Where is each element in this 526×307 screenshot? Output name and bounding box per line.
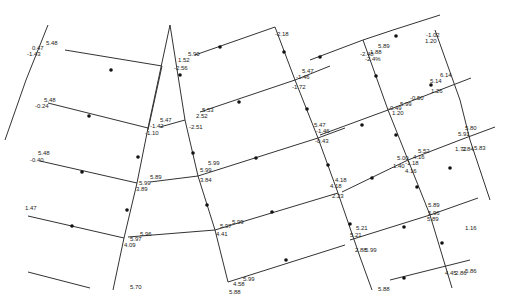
flow-arrow-icon <box>415 185 419 189</box>
flow-arrow-icon <box>125 208 129 212</box>
node-value-label: 3.84 <box>200 177 212 183</box>
pipe-segment <box>363 30 393 40</box>
pipe-segment <box>438 260 470 268</box>
node-value-label: 2.23 <box>332 193 344 199</box>
node-value-label: 5.88 <box>229 289 241 295</box>
node-value-label: 5.83 <box>474 145 486 151</box>
flow-arrow-icon <box>136 155 140 159</box>
node-value-label: 4.18 <box>330 183 342 189</box>
pipe-segment <box>320 110 388 135</box>
flow-arrow-icon <box>402 276 406 280</box>
flow-arrow-icon <box>282 50 286 54</box>
node-value-label: -0.43 <box>315 138 329 144</box>
flow-arrow-icon <box>318 55 322 59</box>
flow-arrow-icon <box>80 170 84 174</box>
node-value-label: 4.16 <box>405 168 417 174</box>
flow-arrow-icon <box>326 163 330 167</box>
flow-arrow-icon <box>360 123 364 127</box>
pipe-segment <box>40 161 137 183</box>
node-value-label: 2.84 <box>462 146 474 152</box>
pipe-segment <box>195 27 275 55</box>
flow-arrow-icon <box>448 166 452 170</box>
pipe-segment <box>430 215 452 288</box>
node-value-label: 1.52 <box>178 57 190 63</box>
node-value-label: 5.89 <box>428 202 440 208</box>
flow-arrow-icon <box>374 74 378 78</box>
node-value-label: 5.48 <box>46 40 58 46</box>
flow-arrow-icon <box>284 258 288 262</box>
node-value-label: 1.20 <box>392 110 404 116</box>
flow-arrow-icon <box>254 156 258 160</box>
node-value-label: 4.58 <box>233 281 245 287</box>
pipe-segment <box>65 50 162 66</box>
node-value-label: 5.89 <box>427 216 439 222</box>
flow-arrow-icon <box>178 73 182 77</box>
flow-arrow-icon <box>370 176 374 180</box>
pipe-segment <box>360 257 372 290</box>
node-value-label: 5.14 <box>430 78 442 84</box>
pipe-segment <box>48 103 148 128</box>
node-value-label: -2.4% <box>365 56 381 62</box>
node-value-label: -1.46 <box>316 128 330 134</box>
pipe-segment <box>170 25 185 120</box>
flow-arrow-icon <box>402 225 406 229</box>
pipe-segment <box>198 176 215 230</box>
flow-arrow-icon <box>440 241 444 245</box>
node-value-label: -2.18 <box>275 31 289 37</box>
pipe-segment <box>28 272 90 288</box>
node-value-label: 5.99 <box>208 160 220 166</box>
pipe-segment <box>5 80 26 140</box>
flow-arrow-icon <box>109 68 113 72</box>
flow-arrow-icon <box>394 133 398 137</box>
flow-arrow-icon <box>305 107 309 111</box>
pipe-network-diagram: 5.480.47-1.435.48-0.245.47-1.42-1.105.48… <box>0 0 526 307</box>
pipe-segment <box>390 268 438 280</box>
node-value-label: 1.40 <box>393 163 405 169</box>
node-value-label: 1.26 <box>431 88 443 94</box>
node-value-label: 1.47 <box>25 205 37 211</box>
node-value-label: 5.99 <box>232 219 244 225</box>
flow-arrow-icon <box>394 34 398 38</box>
pipe-segment <box>200 80 295 112</box>
node-value-label: 5.21 <box>350 232 362 238</box>
flow-arrow-icon <box>205 203 209 207</box>
node-value-label: 5.91 <box>458 131 470 137</box>
node-value-label: 5.89 <box>150 174 162 180</box>
node-value-label: -1.72 <box>292 84 306 90</box>
pipe-segment <box>310 40 363 60</box>
node-value-label: 5.48 <box>38 150 50 156</box>
node-value-label: 1.16 <box>465 225 477 231</box>
pipe-segment <box>393 15 440 30</box>
node-value-label: -1.18 <box>405 160 419 166</box>
pipe-segment <box>215 230 228 282</box>
flow-arrow-icon <box>70 224 74 228</box>
node-value-label: 5.70 <box>130 284 142 290</box>
node-value-label: 2.52 <box>196 113 208 119</box>
node-value-label: -0.40 <box>30 157 44 163</box>
node-value-label: 5.99 <box>200 167 212 173</box>
node-value-label: 4.41 <box>216 231 228 237</box>
node-value-label: -0.24 <box>35 103 49 109</box>
node-value-label: 3.89 <box>136 186 148 192</box>
node-value-label: 2.86 <box>455 270 467 276</box>
node-value-label: -2.51 <box>189 124 203 130</box>
node-value-label: 5.21 <box>356 225 368 231</box>
pipe-segment <box>28 216 124 238</box>
node-value-label: 5.88 <box>378 286 390 292</box>
node-value-label: -1.10 <box>145 130 159 136</box>
flow-arrow-icon <box>191 151 195 155</box>
pipe-segment <box>198 138 318 176</box>
flow-arrow-icon <box>218 45 222 49</box>
node-value-label: -0.50 <box>410 95 424 101</box>
pipe-segment <box>113 238 124 290</box>
pipe-segment <box>148 25 170 128</box>
node-value-label: -1.46 <box>296 74 310 80</box>
network-svg <box>0 0 526 307</box>
node-value-label: 4.09 <box>124 242 136 248</box>
node-value-label: 5.99 <box>365 247 377 253</box>
node-value-label: -1.43 <box>27 51 41 57</box>
node-value-label: 5.97 <box>220 223 232 229</box>
flow-arrow-icon <box>348 222 352 226</box>
node-value-label: -2.56 <box>174 65 188 71</box>
flow-arrow-icon <box>87 114 91 118</box>
